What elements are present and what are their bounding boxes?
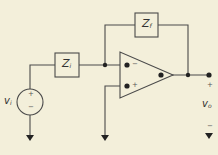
ground-arrow-icon [101, 135, 109, 141]
zf-label: Zf [142, 17, 152, 30]
noninverting-pin-dot [124, 83, 129, 88]
inverting-node-dot [103, 63, 107, 67]
opamp-inverting-sign: − [132, 61, 138, 68]
output-plus-sign: + [207, 82, 213, 89]
output-ground-arrow-icon [205, 133, 213, 139]
vi-label: vi [4, 95, 12, 106]
circuit-wires [0, 0, 218, 155]
source-minus-sign: − [28, 104, 34, 111]
wire-source-to-zi [30, 65, 55, 89]
output-node-dot [186, 73, 190, 77]
output-pin-dot [158, 72, 163, 77]
ground-arrow-icon [26, 135, 34, 141]
wire-feedback-right [158, 25, 188, 75]
zi-label: Zi [62, 57, 71, 70]
circuit-diagram: Zi Zf vi vo + − − + + − [0, 0, 218, 155]
opamp-triangle [120, 52, 173, 98]
opamp-noninverting-sign: + [132, 82, 138, 89]
output-minus-sign: − [207, 123, 213, 130]
vo-label: vo [202, 98, 212, 109]
output-terminal-dot [206, 72, 211, 77]
source-plus-sign: + [28, 91, 34, 98]
inverting-pin-dot [124, 62, 129, 67]
